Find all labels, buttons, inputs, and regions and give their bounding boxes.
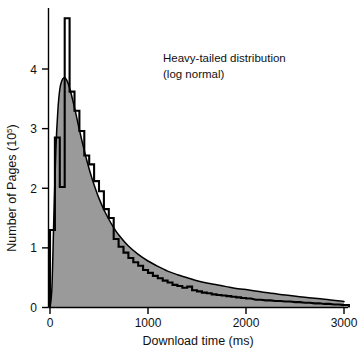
- annotation-line-1: Heavy-tailed distribution: [163, 52, 286, 64]
- y-axis-title-tail: ): [5, 124, 19, 128]
- y-axis-title: Number of Pages (105): [5, 124, 19, 251]
- x-axis-title: Download time (ms): [142, 334, 253, 348]
- y-axis-title-main: Number of Pages (10: [5, 133, 19, 252]
- y-axis-tick-label: 0: [30, 301, 37, 315]
- y-axis-tick-label: 2: [30, 182, 37, 196]
- x-axis-tick-label: 1000: [135, 316, 162, 330]
- x-axis-tick-label: 3000: [331, 316, 358, 330]
- histogram-chart: 01234 0100020003000 Download time (ms) N…: [0, 0, 364, 352]
- y-axis-tick-label: 4: [30, 63, 37, 77]
- y-axis-tick-label: 3: [30, 122, 37, 136]
- x-axis-tick-label: 0: [47, 316, 54, 330]
- y-axis-tick-label: 1: [30, 241, 37, 255]
- chart-figure: 01234 0100020003000 Download time (ms) N…: [0, 0, 364, 352]
- y-axis-title-group: Number of Pages (105): [5, 124, 19, 251]
- x-axis-tick-label: 2000: [233, 316, 260, 330]
- annotation-line-2: (log normal): [163, 68, 225, 80]
